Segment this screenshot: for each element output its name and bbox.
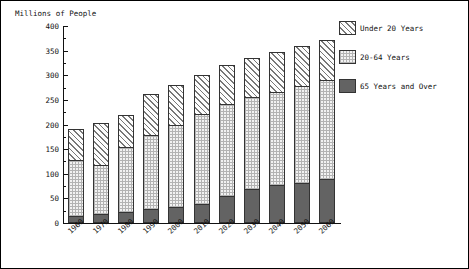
y-tick-label: 200 (45, 120, 59, 129)
y-tick-label: 400 (45, 22, 59, 31)
age2064-dotted-swatch (339, 50, 356, 64)
y-tick-label: 150 (45, 145, 59, 154)
segment-20-64-years (270, 92, 284, 185)
y-tick-label: 300 (45, 71, 59, 80)
segment-65-years-and-over (245, 189, 259, 222)
segment-under-20-years (295, 47, 309, 86)
segment-20-64-years (295, 86, 309, 183)
bar-2000[interactable] (168, 85, 184, 223)
segment-20-64-years (195, 114, 209, 205)
over65-solid-swatch (339, 79, 356, 93)
legend-label: 65 Years and Over (360, 82, 437, 91)
segment-20-64-years (119, 147, 133, 212)
bar-1990[interactable] (143, 94, 159, 223)
legend-label: 20-64 Years (360, 53, 410, 62)
segment-under-20-years (245, 59, 259, 97)
y-axis-tick-labels: 050100150200250300350400 (11, 26, 59, 223)
segment-under-20-years (169, 86, 183, 125)
segment-under-20-years (69, 130, 83, 160)
segment-under-20-years (94, 124, 108, 165)
segment-20-64-years (245, 97, 259, 189)
segment-under-20-years (270, 53, 284, 91)
bar-2050[interactable] (294, 46, 310, 223)
segment-20-64-years (320, 80, 334, 179)
bar-2060[interactable] (319, 40, 335, 223)
y-tick-label: 350 (45, 46, 59, 55)
y-tick-label: 250 (45, 95, 59, 104)
bar-1970[interactable] (93, 123, 109, 223)
legend-item[interactable]: Under 20 Years (339, 21, 465, 35)
y-tick-label: 0 (54, 219, 59, 228)
legend-item[interactable]: 20-64 Years (339, 50, 465, 64)
bar-2020[interactable] (219, 65, 235, 223)
legend-label: Under 20 Years (360, 24, 423, 33)
bar-1960[interactable] (68, 129, 84, 223)
segment-20-64-years (94, 165, 108, 214)
chart-legend: Under 20 Years20-64 Years65 Years and Ov… (339, 21, 465, 108)
segment-65-years-and-over (295, 183, 309, 222)
segment-under-20-years (220, 66, 234, 104)
segment-65-years-and-over (270, 185, 284, 222)
bar-2030[interactable] (244, 58, 260, 223)
segment-under-20-years (144, 95, 158, 134)
segment-under-20-years (119, 116, 133, 148)
bar-2010[interactable] (194, 75, 210, 223)
segment-under-20-years (195, 76, 209, 114)
segment-under-20-years (320, 41, 334, 80)
segment-20-64-years (169, 125, 183, 207)
segment-20-64-years (220, 104, 234, 197)
bar-2040[interactable] (269, 52, 285, 223)
segment-20-64-years (69, 160, 83, 216)
legend-item[interactable]: 65 Years and Over (339, 79, 465, 93)
y-tick-label: 50 (50, 194, 59, 203)
bar-1980[interactable] (118, 115, 134, 223)
segment-20-64-years (144, 135, 158, 209)
segment-65-years-and-over (320, 179, 334, 222)
plot-area (63, 26, 340, 223)
y-axis-title: Millions of People (15, 9, 96, 18)
under20-hatch-swatch (339, 21, 356, 35)
chart-frame: Millions of People 050100150200250300350… (0, 0, 469, 269)
y-tick-label: 100 (45, 169, 59, 178)
